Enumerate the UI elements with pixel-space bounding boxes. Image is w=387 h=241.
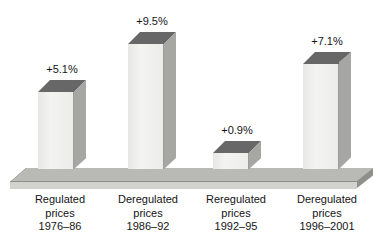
- category-label-3-line1: Reregulated: [186, 193, 286, 207]
- category-label-1-line3: 1976–86: [10, 220, 110, 234]
- bar-value-label-3: +0.9%: [203, 125, 271, 136]
- category-label-3: Reregulated prices 1992–95: [186, 193, 286, 234]
- bar-value-label-4: +7.1%: [293, 36, 361, 47]
- category-label-4: Deregulated prices 1996–2001: [275, 193, 379, 234]
- category-label-2-line2: prices: [98, 207, 198, 221]
- category-label-4-line3: 1996–2001: [275, 220, 379, 234]
- category-label-2-line3: 1986–92: [98, 220, 198, 234]
- bar-front-face-4: [303, 64, 339, 169]
- category-label-2-line1: Deregulated: [98, 193, 198, 207]
- category-label-3-line2: prices: [186, 207, 286, 221]
- bar-front-face-2: [128, 44, 164, 169]
- category-label-4-line2: prices: [275, 207, 379, 221]
- bar-side-face-2: [164, 32, 176, 169]
- bar-chart: +5.1% +9.5% +0.9% +7.1% Regulated prices…: [0, 0, 387, 241]
- bar-side-face-1: [74, 80, 86, 169]
- category-label-1-line1: Regulated: [10, 193, 110, 207]
- bar-side-face-4: [339, 52, 351, 169]
- category-label-1: Regulated prices 1976–86: [10, 193, 110, 234]
- category-label-4-line1: Deregulated: [275, 193, 379, 207]
- floor-top-surface: [10, 168, 373, 182]
- bar-front-face-1: [38, 92, 74, 169]
- category-label-1-line2: prices: [10, 207, 110, 221]
- category-label-3-line3: 1992–95: [186, 220, 286, 234]
- bar-front-face-3: [213, 153, 249, 169]
- floor-front-surface: [10, 181, 357, 189]
- category-label-2: Deregulated prices 1986–92: [98, 193, 198, 234]
- bar-value-label-2: +9.5%: [118, 16, 186, 27]
- bar-value-label-1: +5.1%: [28, 64, 96, 75]
